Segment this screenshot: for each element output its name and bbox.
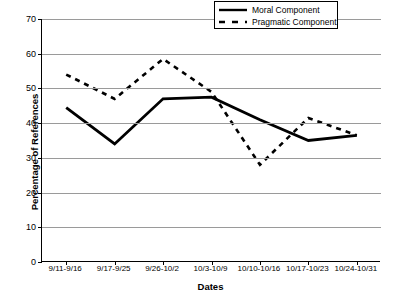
y-tick-label: 50: [26, 83, 36, 93]
x-axis-title: Dates: [41, 281, 380, 292]
y-tick-mark: [38, 227, 42, 228]
y-tick-mark: [38, 123, 42, 124]
x-tick-label: 10/10-10/16: [238, 264, 281, 273]
x-tick-label: 10/3-10/9: [194, 264, 228, 273]
x-tick-label: 9/26-10/2: [145, 264, 179, 273]
gridline: [42, 123, 381, 124]
y-tick-label: 60: [26, 49, 36, 59]
x-tick-label: 9/17-9/25: [97, 264, 131, 273]
y-tick-mark: [38, 193, 42, 194]
y-tick-label: 20: [26, 188, 36, 198]
gridline: [42, 54, 381, 55]
gridline: [42, 158, 381, 159]
legend-item-moral: Moral Component: [218, 5, 334, 16]
y-tick-label: 30: [26, 153, 36, 163]
legend-item-pragmatic: Pragmatic Component: [218, 16, 334, 27]
x-tick-label: 10/24-10/31: [334, 264, 377, 273]
gridline: [42, 227, 381, 228]
y-axis-labels: 010203040506070: [0, 19, 36, 262]
legend-label: Pragmatic Component: [252, 17, 337, 27]
y-tick-label: 10: [26, 222, 36, 232]
line-chart: Percentage of References 010203040506070…: [0, 0, 395, 304]
legend-swatch-solid-icon: [218, 5, 248, 15]
x-tick-label: 9/11-9/16: [49, 264, 82, 273]
legend-label: Moral Component: [252, 5, 320, 15]
legend-swatch-dashed-icon: [218, 17, 248, 27]
series-line: [66, 97, 357, 144]
y-tick-label: 70: [26, 14, 36, 24]
y-tick-label: 0: [31, 257, 36, 267]
gridline: [42, 193, 381, 194]
y-tick-mark: [38, 262, 42, 263]
y-tick-mark: [38, 158, 42, 159]
y-tick-mark: [38, 54, 42, 55]
x-tick-label: 10/17-10/23: [286, 264, 329, 273]
series-line: [66, 59, 357, 165]
y-tick-label: 40: [26, 118, 36, 128]
plot-area: [41, 19, 380, 262]
y-tick-mark: [38, 88, 42, 89]
y-tick-mark: [38, 19, 42, 20]
series-lines: [42, 19, 381, 262]
chart-legend: Moral Component Pragmatic Component: [214, 1, 338, 29]
gridline: [42, 88, 381, 89]
x-axis-labels: 9/11-9/169/17-9/259/26-10/210/3-10/910/1…: [41, 264, 380, 278]
